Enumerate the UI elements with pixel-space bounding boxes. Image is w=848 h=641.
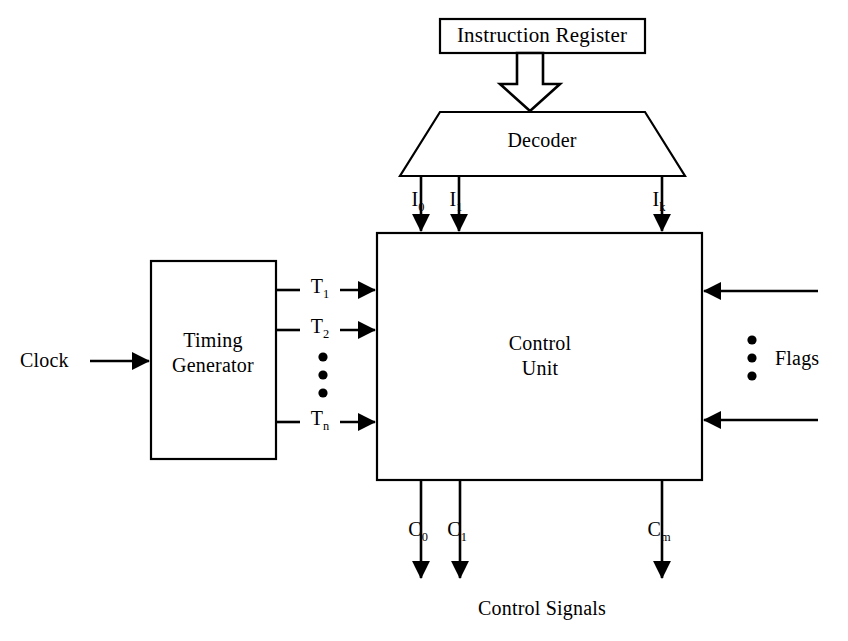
instruction-register-label: Instruction Register: [457, 24, 627, 47]
flags-ellipsis-dot: [747, 335, 756, 344]
decoder-output-label-i1: I1: [449, 189, 462, 214]
signal-base: I: [652, 188, 659, 210]
signal-base: C: [408, 518, 422, 540]
control-signals-label: Control Signals: [478, 598, 606, 620]
signal-subscript: 1: [461, 530, 467, 544]
signal-subscript: 0: [422, 530, 428, 544]
decoder-label: Decoder: [507, 130, 576, 152]
signal-subscript: 2: [323, 327, 329, 341]
control-unit-label-line1: Control: [509, 333, 572, 355]
timing-signal-label-t1: T1: [311, 276, 330, 301]
timing-signal-label-t2: T2: [311, 316, 330, 341]
flags-label: Flags: [775, 348, 819, 370]
clock-label: Clock: [20, 350, 69, 372]
signal-base: C: [447, 518, 461, 540]
control-unit-diagram: Instruction Register Decoder Control Uni…: [0, 0, 848, 641]
timing-ellipsis-dot: [318, 388, 327, 397]
diagram-canvas: [0, 0, 848, 641]
signal-subscript: k: [659, 200, 665, 214]
signal-base: T: [311, 275, 323, 297]
control-unit-label-line2: Unit: [522, 358, 558, 380]
signal-base: I: [411, 188, 418, 210]
signal-subscript: n: [323, 419, 329, 433]
decoder-output-label-ik: Ik: [652, 189, 665, 214]
signal-subscript: 0: [418, 200, 424, 214]
flags-ellipsis-dot: [747, 371, 756, 380]
flags-ellipsis-dot: [747, 353, 756, 362]
timing-generator-label-line1: Timing: [183, 330, 242, 352]
ir-to-decoder-block-arrow: [500, 53, 560, 111]
signal-subscript: m: [661, 530, 671, 544]
signal-subscript: 1: [456, 200, 462, 214]
timing-ellipsis-dot: [318, 370, 327, 379]
signal-base: T: [311, 407, 323, 429]
control-output-label-c1: C1: [447, 519, 467, 544]
timing-generator-label-line2: Generator: [172, 355, 254, 377]
signal-subscript: 1: [323, 287, 329, 301]
signal-base: T: [311, 315, 323, 337]
timing-signal-label-tn: Tn: [311, 408, 330, 433]
timing-ellipsis-dot: [318, 352, 327, 361]
signal-base: I: [449, 188, 456, 210]
decoder-output-label-i0: I0: [411, 189, 424, 214]
signal-base: C: [647, 518, 661, 540]
control-output-label-c0: C0: [408, 519, 428, 544]
control-output-label-cm: Cm: [647, 519, 670, 544]
